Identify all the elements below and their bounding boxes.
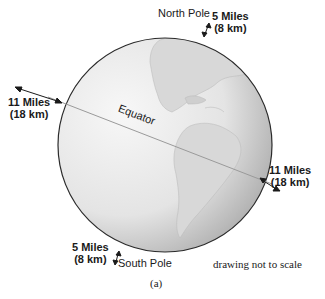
east-bulge-label: 11 Miles (18 km) (269, 164, 311, 188)
east-bulge-miles: 11 Miles (269, 164, 311, 176)
south-pole-label: South Pole (118, 257, 172, 269)
south-bulge-label: 5 Miles (8 km) (72, 241, 109, 265)
east-bulge-km: (18 km) (269, 176, 311, 188)
globe-illustration (0, 0, 325, 299)
south-bulge-km: (8 km) (72, 253, 109, 265)
south-bulge-miles: 5 Miles (72, 241, 109, 253)
north-bulge-arrow (202, 23, 211, 37)
north-bulge-km: (8 km) (212, 22, 249, 34)
not-to-scale-note: drawing not to scale (213, 258, 302, 270)
figure-caption: (a) (150, 277, 162, 289)
west-bulge-miles: 11 Miles (8, 96, 50, 108)
west-bulge-label: 11 Miles (18 km) (8, 96, 50, 120)
north-bulge-label: 5 Miles (8 km) (212, 10, 249, 34)
north-bulge-miles: 5 Miles (212, 10, 249, 22)
earth-shape-diagram: North Pole 5 Miles (8 km) 11 Miles (18 k… (0, 0, 325, 299)
north-pole-label: North Pole (158, 7, 210, 19)
west-bulge-km: (18 km) (8, 108, 50, 120)
